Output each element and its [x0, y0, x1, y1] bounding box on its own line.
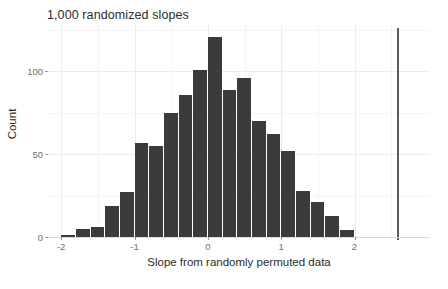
x-tick-mark: [208, 237, 209, 240]
histogram-bar: [267, 134, 281, 237]
histogram-bar: [179, 95, 193, 237]
y-tick-label: 50: [32, 149, 43, 160]
x-tick-mark: [61, 237, 62, 240]
x-tick-label: 2: [352, 241, 357, 252]
gridline-minor-x: [98, 25, 99, 237]
x-tick-mark: [135, 237, 136, 240]
histogram-bar: [76, 229, 90, 237]
observed-slope-line: [397, 28, 399, 240]
histogram-bar: [223, 90, 237, 237]
y-tick-mark: [45, 71, 48, 72]
gridline-minor-x: [391, 25, 392, 237]
histogram-bar: [237, 78, 251, 237]
y-tick-label: 0: [38, 232, 43, 243]
histogram-bar: [325, 216, 339, 238]
histogram-bar: [120, 192, 134, 237]
histogram-bar: [208, 37, 222, 237]
gridline-major-x: [61, 25, 62, 237]
histogram-bar: [311, 202, 325, 237]
histogram-bar: [91, 227, 105, 237]
histogram-bar: [252, 121, 266, 237]
histogram-bar: [164, 113, 178, 237]
histogram-bar: [105, 206, 119, 238]
gridline-major-x: [355, 25, 356, 237]
histogram-bar: [135, 143, 149, 237]
y-axis-title: Count: [6, 94, 18, 154]
chart-title: 1,000 randomized slopes: [47, 8, 189, 22]
x-axis-title: Slope from randomly permuted data: [48, 256, 430, 268]
x-axis-line: [48, 237, 430, 238]
histogram-figure: 1,000 randomized slopes -2-1012 050100 S…: [0, 0, 448, 289]
x-tick-label: 1: [279, 241, 284, 252]
x-tick-mark: [355, 237, 356, 240]
histogram-bar: [281, 151, 295, 237]
x-tick-mark: [281, 237, 282, 240]
histogram-bar: [340, 230, 354, 237]
x-tick-label: -1: [130, 241, 138, 252]
histogram-bar: [193, 70, 207, 237]
histogram-bar: [149, 146, 163, 237]
plot-panel: [48, 25, 430, 237]
gridline-minor-y: [48, 30, 430, 31]
y-tick-label: 100: [27, 66, 43, 77]
gridline-major-y: [48, 71, 430, 72]
x-tick-label: -2: [57, 241, 65, 252]
y-tick-mark: [45, 154, 48, 155]
x-tick-label: 0: [205, 241, 210, 252]
histogram-bar: [296, 191, 310, 237]
y-tick-mark: [45, 237, 48, 238]
